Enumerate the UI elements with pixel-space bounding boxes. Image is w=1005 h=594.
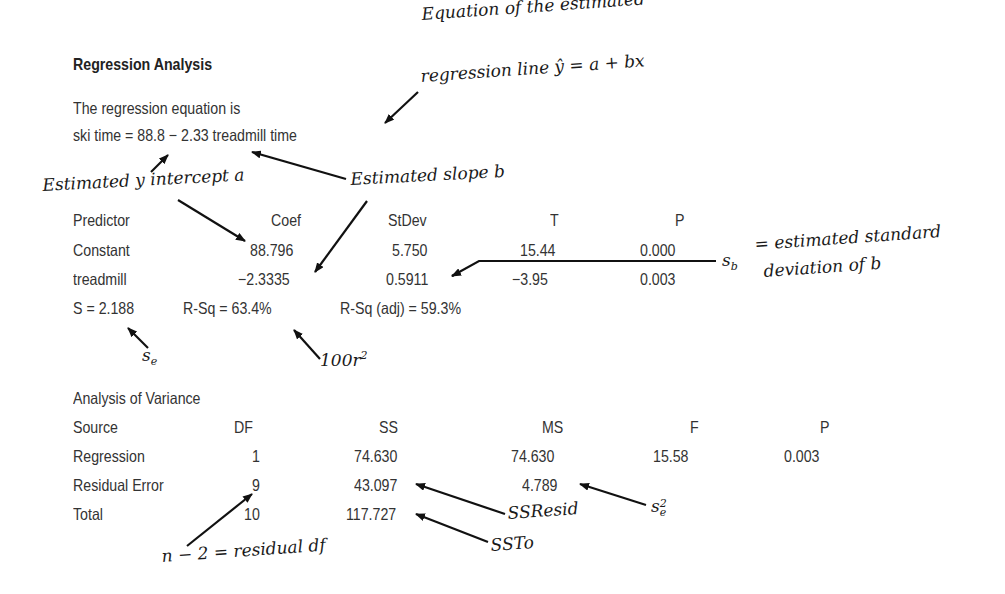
df: 9 (252, 476, 260, 495)
arrow-sb (452, 261, 716, 276)
source: Residual Error (73, 476, 164, 495)
ss: 117.727 (346, 505, 396, 524)
equation-intro: The regression equation is (73, 99, 240, 118)
annotation-se: se (142, 345, 157, 368)
coef-header-predictor: Predictor (73, 211, 130, 230)
stdev: 0.5911 (386, 270, 428, 289)
coef: −2.3335 (238, 270, 290, 289)
arrow-slope-coef (315, 201, 367, 272)
annotation-sb-symbol: sb (722, 250, 738, 273)
arrow-equation (385, 92, 418, 123)
anova-header-f: F (690, 418, 699, 437)
df: 1 (252, 447, 260, 466)
predictor: treadmill (73, 270, 127, 289)
arrow-se2 (580, 484, 646, 505)
arrow-r2 (294, 330, 320, 359)
arrow-intercept-coef (178, 200, 245, 241)
anova-title: Analysis of Variance (73, 389, 201, 408)
anova-header-ms: MS (542, 418, 563, 437)
predictor: Constant (73, 241, 130, 260)
anova-header-p: P (820, 418, 829, 437)
anova-header-source: Source (73, 418, 118, 437)
coef-header-coef: Coef (271, 211, 301, 230)
annotation-arrows (0, 0, 1005, 594)
p-value: 0.003 (640, 270, 676, 289)
coef-header-stdev: StDev (388, 211, 427, 230)
arrow-slope-up (252, 152, 346, 179)
stat-rsq-adj: R-Sq (adj) = 59.3% (340, 299, 461, 318)
annotation-100r2: 100r2 (320, 349, 368, 370)
ms: 4.789 (522, 476, 558, 495)
p-value: 0.000 (640, 241, 676, 260)
regression-equation: ski time = 88.8 − 2.33 treadmill time (73, 126, 297, 145)
coef: 88.796 (250, 241, 293, 260)
annotation-ssto: SSTo (490, 532, 535, 555)
df: 10 (244, 505, 260, 524)
arrow-ssto (416, 514, 488, 542)
source: Regression (73, 447, 145, 466)
stdev: 5.750 (392, 241, 428, 260)
source: Total (73, 505, 103, 524)
stat-rsq: R-Sq = 63.4% (183, 299, 272, 318)
arrow-df (187, 494, 252, 546)
f: 15.58 (653, 447, 689, 466)
t-value: 15.44 (520, 241, 556, 260)
ms: 74.630 (511, 447, 554, 466)
ss: 43.097 (354, 476, 397, 495)
report-title: Regression Analysis (73, 55, 212, 74)
anova-header-ss: SS (379, 418, 398, 437)
p: 0.003 (784, 447, 820, 466)
anova-header-df: DF (234, 418, 253, 437)
ss: 74.630 (354, 447, 397, 466)
coef-header-t: T (550, 211, 559, 230)
coef-header-p: P (675, 211, 684, 230)
stat-s: S = 2.188 (73, 299, 134, 318)
arrow-ssresid (416, 484, 505, 514)
annotation-se-squared: s2e (651, 496, 667, 517)
t-value: −3.95 (512, 270, 548, 289)
